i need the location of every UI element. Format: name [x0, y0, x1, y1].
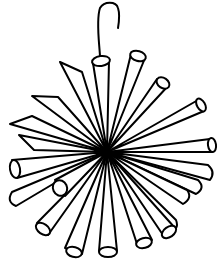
- center-knot: [104, 149, 110, 155]
- hook-icon: [98, 3, 119, 56]
- ornament-illustration: Line drawing of a hanging ornament made …: [0, 0, 221, 265]
